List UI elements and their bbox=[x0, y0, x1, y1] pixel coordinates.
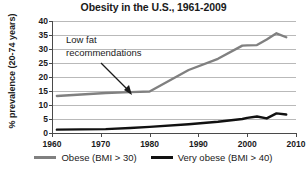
y-axis-title: % prevalence (20-74 years) bbox=[7, 12, 17, 130]
legend-swatch bbox=[34, 156, 56, 159]
chart-title: Obesity in the U.S., 1961-2009 bbox=[0, 1, 307, 13]
x-tick-label: 1990 bbox=[189, 140, 208, 149]
annotation-arrow-icon bbox=[99, 61, 141, 99]
y-tick-label: 35 bbox=[39, 31, 48, 40]
annotation-low-fat-recommendations: Low fat recommendations bbox=[66, 34, 142, 60]
legend-label: Obese (BMI > 30) bbox=[61, 152, 136, 163]
chart-legend: Obese (BMI > 30)Very obese (BMI > 40) bbox=[0, 152, 307, 163]
y-tick-label: 25 bbox=[39, 59, 48, 68]
legend-label: Very obese (BMI > 40) bbox=[178, 152, 273, 163]
x-tick-label: 2000 bbox=[238, 140, 257, 149]
x-tick-label: 1960 bbox=[43, 140, 62, 149]
legend-swatch bbox=[151, 156, 173, 159]
x-tick-mark bbox=[247, 133, 248, 137]
y-tick-label: 40 bbox=[39, 17, 48, 26]
y-tick-label: 0 bbox=[43, 129, 48, 138]
x-axis-line bbox=[52, 133, 296, 134]
x-tick-mark bbox=[296, 133, 297, 137]
obesity-line-chart: Obesity in the U.S., 1961-2009 % prevale… bbox=[0, 0, 307, 178]
x-tick-mark bbox=[198, 133, 199, 137]
legend-item[interactable]: Very obese (BMI > 40) bbox=[151, 152, 273, 163]
x-tick-label: 1970 bbox=[91, 140, 110, 149]
y-tick-label: 15 bbox=[39, 87, 48, 96]
x-tick-label: 1980 bbox=[140, 140, 159, 149]
series-line bbox=[57, 113, 286, 129]
y-tick-label: 10 bbox=[39, 101, 48, 110]
legend-item[interactable]: Obese (BMI > 30) bbox=[34, 152, 136, 163]
x-tick-mark bbox=[101, 133, 102, 137]
y-tick-label: 30 bbox=[39, 45, 48, 54]
x-tick-label: 2010 bbox=[287, 140, 306, 149]
y-tick-label: 20 bbox=[39, 73, 48, 82]
x-tick-mark bbox=[150, 133, 151, 137]
x-tick-mark bbox=[52, 133, 53, 137]
y-tick-label: 5 bbox=[43, 115, 48, 124]
